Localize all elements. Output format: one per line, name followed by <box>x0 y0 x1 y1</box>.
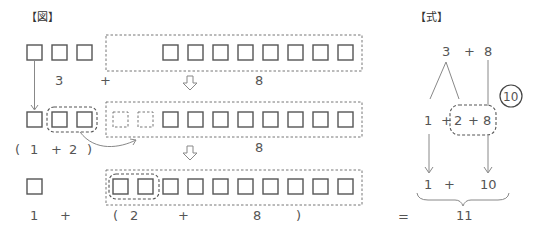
block <box>138 179 153 194</box>
formula-line-1: 3 + 8 <box>442 44 492 59</box>
formula-header: 【式】 <box>415 11 448 24</box>
block <box>238 179 253 194</box>
split-line-right <box>446 62 459 99</box>
label-plus: + <box>178 208 189 223</box>
label-plus: + <box>100 73 111 88</box>
label-close-paren: ) <box>87 142 92 157</box>
label-open-paren: ( <box>15 142 20 157</box>
block <box>313 112 328 127</box>
block <box>288 112 303 127</box>
block <box>188 45 203 60</box>
label-two: 2 <box>130 208 138 223</box>
block <box>27 179 42 194</box>
block <box>188 179 203 194</box>
formula-line-3: 1 + 10 <box>424 177 497 192</box>
formula-plus: + <box>468 113 479 128</box>
formula-plus: + <box>441 113 452 128</box>
block <box>77 45 92 60</box>
label-eight: 8 <box>255 140 263 155</box>
down-arrow-icon <box>183 76 197 90</box>
formula-plus: + <box>444 177 455 192</box>
block <box>288 179 303 194</box>
label-three: 3 <box>55 73 63 88</box>
block <box>113 179 128 194</box>
sum-brace <box>417 193 509 206</box>
formula-one: 1 <box>424 177 432 192</box>
ten-badge-label: 10 <box>503 90 518 104</box>
label-eight: 8 <box>253 208 261 223</box>
block <box>338 112 353 127</box>
block <box>213 45 228 60</box>
make-ten-diagram: 【図】 3 + 8 <box>0 0 535 234</box>
block <box>263 179 278 194</box>
label-eight: 8 <box>255 73 263 88</box>
label-plus: + <box>60 208 71 223</box>
label-one: 1 <box>30 142 38 157</box>
label-one: 1 <box>30 208 38 223</box>
ghost-block <box>138 112 153 127</box>
formula-plus: + <box>464 44 475 59</box>
block <box>238 45 253 60</box>
equals-sign: = <box>398 209 409 224</box>
block <box>263 45 278 60</box>
formula-ten: 10 <box>480 177 497 192</box>
block <box>313 45 328 60</box>
block <box>213 112 228 127</box>
block <box>338 179 353 194</box>
formula-line-2: 1 + 2 + 8 <box>424 105 496 135</box>
row-1: 3 + 8 <box>27 35 362 90</box>
label-close-paren: ) <box>296 208 301 223</box>
block <box>263 112 278 127</box>
block <box>52 112 67 127</box>
label-plus: + <box>51 142 62 157</box>
label-open-paren: ( <box>113 208 118 223</box>
row-2: ( 1 + 2 ) 8 <box>15 102 362 160</box>
row-3: 1 + ( 2 + 8 ) <box>27 170 362 223</box>
formula-eight: 8 <box>484 44 492 59</box>
block <box>288 45 303 60</box>
block <box>163 45 178 60</box>
block <box>338 45 353 60</box>
block <box>77 112 92 127</box>
down-arrow-icon <box>183 146 197 160</box>
block <box>163 112 178 127</box>
result-eleven: 11 <box>456 208 473 223</box>
block <box>188 112 203 127</box>
formula-two: 2 <box>454 113 462 128</box>
block <box>27 45 42 60</box>
block <box>163 179 178 194</box>
block <box>313 179 328 194</box>
block <box>238 112 253 127</box>
block <box>27 112 42 127</box>
split-line-left <box>430 62 446 99</box>
formula-one: 1 <box>424 113 432 128</box>
block <box>213 179 228 194</box>
label-two: 2 <box>69 142 77 157</box>
formula-eight: 8 <box>483 113 491 128</box>
figure-header: 【図】 <box>26 11 59 24</box>
block <box>52 45 67 60</box>
formula-three: 3 <box>442 44 450 59</box>
ghost-block <box>113 112 128 127</box>
